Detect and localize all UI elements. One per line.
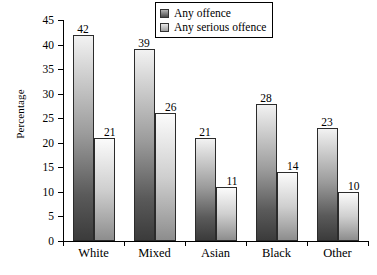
x-tick [124, 241, 125, 246]
x-category-label: Other [323, 246, 351, 261]
legend-item-any-serious-offence: Any serious offence [160, 20, 266, 34]
y-tick-label: 45 [43, 14, 55, 26]
y-tick: 15 [58, 167, 63, 168]
bar: 14 [277, 172, 298, 241]
bar-value-label: 28 [260, 92, 272, 104]
y-tick-label: 25 [43, 112, 55, 124]
y-tick: 10 [58, 192, 63, 193]
bar-value-label: 21 [199, 126, 211, 138]
x-axis-line [63, 241, 369, 242]
x-category-label: Mixed [138, 246, 171, 261]
bar: 21 [94, 138, 115, 241]
bar-value-label: 26 [165, 101, 177, 113]
y-tick: 45 [58, 20, 63, 21]
bar: 42 [73, 35, 94, 241]
y-tick: 20 [58, 143, 63, 144]
y-tick: 40 [58, 45, 63, 46]
y-tick-label: 30 [43, 88, 55, 100]
legend-label-any-serious-offence: Any serious offence [174, 21, 266, 33]
y-tick-label: 5 [48, 210, 54, 222]
bar-value-label: 23 [321, 116, 333, 128]
legend-item-any-offence: Any offence [160, 6, 266, 20]
x-tick [368, 241, 369, 246]
bar: 21 [195, 138, 216, 241]
bar-value-label: 11 [226, 175, 237, 187]
x-category-label: White [78, 246, 109, 261]
bar: 11 [216, 187, 237, 241]
x-tick [246, 241, 247, 246]
y-tick: 30 [58, 94, 63, 95]
y-tick-label: 15 [43, 161, 55, 173]
y-tick-label: 0 [48, 235, 54, 247]
x-tick [185, 241, 186, 246]
bar: 39 [134, 49, 155, 241]
bar-value-label: 10 [348, 180, 360, 192]
legend-label-any-offence: Any offence [174, 7, 231, 19]
x-category-label: Black [262, 246, 291, 261]
legend-swatch-dark-icon [160, 9, 169, 18]
y-tick-label: 10 [43, 186, 55, 198]
bar-value-label: 42 [77, 23, 89, 35]
chart-legend: Any offence Any serious offence [155, 2, 273, 38]
bar: 23 [317, 128, 338, 241]
x-tick [307, 241, 308, 246]
bar-value-label: 14 [287, 160, 299, 172]
legend-swatch-light-icon [160, 23, 169, 32]
y-tick-label: 20 [43, 137, 55, 149]
x-tick [63, 241, 64, 246]
bar: 10 [338, 192, 359, 241]
y-axis-line [63, 20, 64, 242]
x-category-label: Asian [201, 246, 230, 261]
y-tick: 5 [58, 216, 63, 217]
bar: 26 [155, 113, 176, 241]
y-tick-label: 40 [43, 39, 55, 51]
bar-value-label: 21 [104, 126, 116, 138]
y-tick-label: 35 [43, 63, 55, 75]
plot-area: 051015202530354045 42213926211128142310 … [63, 20, 368, 241]
bar-value-label: 39 [138, 37, 150, 49]
y-tick: 35 [58, 69, 63, 70]
bar: 28 [256, 104, 277, 242]
y-tick: 25 [58, 118, 63, 119]
bar-chart: Percentage 051015202530354045 4221392621… [0, 0, 377, 275]
y-axis-title: Percentage [14, 59, 26, 169]
